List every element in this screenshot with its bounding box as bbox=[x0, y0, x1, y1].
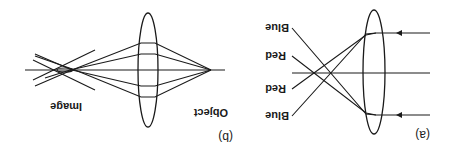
label-red-bottom: Red bbox=[265, 83, 286, 95]
panel-a bbox=[292, 10, 430, 134]
arrowhead-icon bbox=[396, 30, 402, 36]
optics-figure: Blue Red Red Blue (a) Object Image (b) bbox=[0, 0, 455, 166]
panel-a-label: (a) bbox=[415, 128, 430, 142]
label-blue-bottom: Blue bbox=[265, 110, 289, 122]
arrowhead-icon bbox=[396, 112, 402, 118]
label-red-top: Red bbox=[265, 50, 286, 62]
object-label: Object bbox=[193, 107, 228, 119]
label-blue-top: Blue bbox=[265, 22, 289, 34]
panel-b-label: (b) bbox=[218, 130, 233, 144]
image-label: Image bbox=[50, 101, 82, 113]
ray-b1 bbox=[35, 43, 211, 86]
